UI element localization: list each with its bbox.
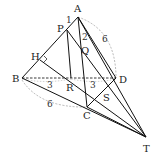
measure-AD: 6 <box>102 34 108 44</box>
measure-AP: 1 <box>66 15 72 25</box>
label-P: P <box>57 23 64 34</box>
geometry-diagram: A P Q H B R D S C T 1 2 6 3 3 6 <box>0 0 151 155</box>
line-AB <box>22 17 78 78</box>
label-D: D <box>119 74 127 85</box>
right-angle-mark-H <box>43 56 47 63</box>
measure-BC: 6 <box>47 99 53 109</box>
line-PR <box>67 30 71 78</box>
label-H: H <box>31 51 40 62</box>
label-T: T <box>143 143 150 154</box>
label-C: C <box>83 110 91 121</box>
label-S: S <box>103 92 110 103</box>
line-HT <box>40 60 146 137</box>
label-A: A <box>73 3 82 14</box>
measure-BR: 3 <box>47 80 53 90</box>
line-PT <box>67 30 146 137</box>
measure-PQ: 2 <box>82 32 88 42</box>
label-Q: Q <box>81 45 89 56</box>
diagram-canvas: A P Q H B R D S C T 1 2 6 3 3 6 <box>0 0 151 155</box>
label-R: R <box>66 82 74 93</box>
line-BT <box>22 78 146 137</box>
label-B: B <box>12 73 19 84</box>
measure-RD: 3 <box>90 80 96 90</box>
